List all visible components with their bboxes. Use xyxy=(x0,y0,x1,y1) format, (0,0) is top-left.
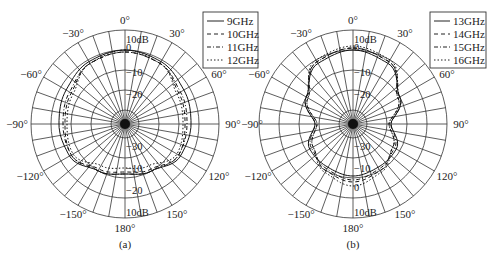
radial-label-0-top: 0 xyxy=(126,42,131,53)
panel-caption-a: (a) xyxy=(119,238,132,251)
radial-label-m10-bottom: −10 xyxy=(354,163,370,174)
radial-label-m20-top: −20 xyxy=(126,89,142,100)
angle-label-60: 60° xyxy=(439,68,454,80)
radial-label-m20-bottom: −20 xyxy=(126,185,142,196)
angle-label-150: 150° xyxy=(395,208,416,220)
legend-item-10ghz: 10GHz xyxy=(227,28,259,40)
angle-label-m150: −150° xyxy=(59,208,86,220)
angle-label-150: 150° xyxy=(167,208,188,220)
polar-chart-a xyxy=(31,30,219,218)
angle-label-120: 120° xyxy=(209,170,230,182)
polar-charts: 0° 30° 60° 90° 120° 150° 180° −150° −120… xyxy=(0,0,498,256)
angle-label-180: 180° xyxy=(115,222,136,234)
legend-item-15ghz: 15GHz xyxy=(453,41,485,53)
angle-label-60: 60° xyxy=(211,68,226,80)
radial-label-m10-top: −10 xyxy=(354,67,370,78)
angle-label-90: 90° xyxy=(453,118,468,130)
angle-label-m60: −60° xyxy=(20,68,42,80)
angle-label-30: 30° xyxy=(397,27,412,39)
radial-label-0-bottom: 0 xyxy=(354,182,359,193)
angle-label-m30: −30° xyxy=(62,27,84,39)
legend-item-14ghz: 14GHz xyxy=(453,28,485,40)
legend-item-12ghz: 12GHz xyxy=(227,54,259,66)
radial-label-m20-top: −20 xyxy=(354,89,370,100)
radial-label-0-top: 0 xyxy=(354,42,359,53)
angle-label-m90: −90° xyxy=(6,118,28,130)
angle-label-m120: −120° xyxy=(16,170,43,182)
radial-label-m30-bottom: −30 xyxy=(126,141,142,152)
polar-chart-b xyxy=(259,30,447,218)
legend-item-9ghz: 9GHz xyxy=(227,15,253,27)
panel-caption-b: (b) xyxy=(347,238,360,251)
angle-label-120: 120° xyxy=(437,170,458,182)
legend-item-16ghz: 16GHz xyxy=(453,54,485,66)
angle-label-m120: −120° xyxy=(244,170,271,182)
radial-label-10db-bottom: 10dB xyxy=(126,207,149,218)
angle-label-0: 0° xyxy=(120,14,130,26)
radial-label-m10-top: −10 xyxy=(126,67,142,78)
radial-label-10db-bottom: 10dB xyxy=(354,207,377,218)
angle-label-m30: −30° xyxy=(290,27,312,39)
angle-label-m60: −60° xyxy=(248,68,270,80)
angle-label-m150: −150° xyxy=(287,208,314,220)
radial-label-m10-bottom: −10 xyxy=(126,163,142,174)
angle-label-180: 180° xyxy=(343,222,364,234)
legend-b: 13GHz 14GHz 15GHz 16GHz xyxy=(430,12,486,68)
angle-label-30: 30° xyxy=(169,27,184,39)
legend-item-11ghz: 11GHz xyxy=(227,41,258,53)
legend-item-13ghz: 13GHz xyxy=(453,15,485,27)
legend-a: 9GHz 10GHz 11GHz 12GHz xyxy=(203,12,259,68)
angle-label-90: 90° xyxy=(225,118,240,130)
radial-label-m30-bottom: −30 xyxy=(354,141,370,152)
angle-label-0: 0° xyxy=(348,14,358,26)
angle-label-m90: −90° xyxy=(241,118,263,130)
